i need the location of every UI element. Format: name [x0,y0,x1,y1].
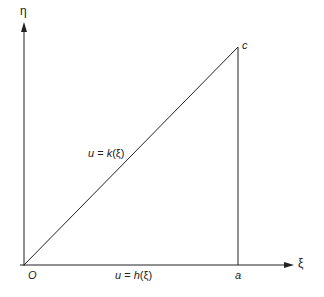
xi-axis-label: ξ [298,256,303,270]
point-c-label: c [242,39,248,51]
xi-axis-arrow-icon [284,262,294,268]
origin-label: O [28,269,37,281]
curve-k [24,47,238,265]
point-a-label: a [235,269,241,281]
eta-axis-arrow-icon [21,22,27,32]
eta-axis-label: η [20,4,27,18]
diagram-canvas [0,0,324,297]
curve-k-label: u = k(ξ) [88,147,124,159]
curve-h-label: u = h(ξ) [115,269,152,281]
